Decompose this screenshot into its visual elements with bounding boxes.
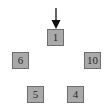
node-10: 10 <box>84 52 101 69</box>
node-6: 6 <box>12 52 29 69</box>
node-label: 10 <box>87 55 98 66</box>
node-5: 5 <box>27 86 44 103</box>
node-label: 5 <box>33 89 39 100</box>
node-1: 1 <box>47 29 64 46</box>
node-4: 4 <box>67 86 84 103</box>
down-arrow-icon <box>50 8 62 30</box>
node-label: 4 <box>73 89 79 100</box>
node-label: 1 <box>53 32 59 43</box>
node-label: 6 <box>18 55 24 66</box>
